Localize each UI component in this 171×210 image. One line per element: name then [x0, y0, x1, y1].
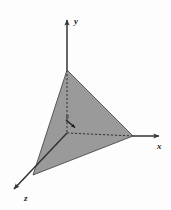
axis-label-y: y: [73, 16, 79, 26]
shaded-plane-triangle: [33, 70, 133, 175]
axis-label-z: z: [23, 193, 28, 203]
normal-vector-label: a: [66, 113, 69, 119]
coordinate-diagram: x y z a: [0, 0, 171, 210]
axis-label-x: x: [156, 141, 162, 151]
figure-canvas: x y z a: [0, 0, 171, 210]
